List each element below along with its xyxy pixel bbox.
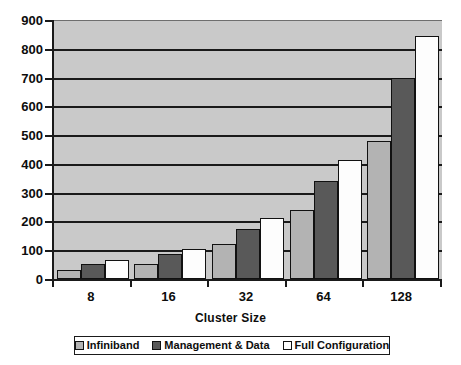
y-tick-label-200: 200 <box>0 215 43 228</box>
x-tick-mark-2 <box>207 279 209 287</box>
bar-64-series-0 <box>290 210 314 279</box>
y-tick-mark-0 <box>45 279 52 281</box>
y-tick-label-700: 700 <box>0 72 43 85</box>
y-tick-mark-100 <box>45 250 52 252</box>
bar-128-series-0 <box>367 141 391 279</box>
bar-8-series-2 <box>105 260 129 279</box>
bar-group-128 <box>364 20 442 279</box>
bar-128-series-2 <box>415 36 439 279</box>
bar-16-series-2 <box>182 249 206 279</box>
bar-16-series-0 <box>134 264 158 279</box>
bar-group-8 <box>54 20 132 279</box>
bar-16-series-1 <box>158 254 182 279</box>
plot-area <box>52 20 442 281</box>
legend-swatch-icon-2 <box>283 341 292 350</box>
x-tick-mark-5 <box>440 279 442 287</box>
x-tick-label-16: 16 <box>161 290 175 303</box>
y-tick-mark-600 <box>45 106 52 108</box>
y-tick-mark-500 <box>45 135 52 137</box>
y-tick-mark-200 <box>45 221 52 223</box>
bar-32-series-1 <box>236 229 260 279</box>
bar-group-32 <box>209 20 287 279</box>
x-tick-label-32: 32 <box>239 290 253 303</box>
x-axis-title: Cluster Size <box>0 311 461 325</box>
bar-128-series-1 <box>391 78 415 279</box>
legend-entry-2: Full Configuration <box>283 340 390 351</box>
bar-64-series-1 <box>314 181 338 279</box>
legend-entry-1: Management & Data <box>152 340 269 351</box>
bar-64-series-2 <box>338 160 362 279</box>
y-tick-mark-800 <box>45 49 52 51</box>
y-tick-label-900: 900 <box>0 14 43 27</box>
x-tick-mark-0 <box>52 279 54 287</box>
y-tick-label-100: 100 <box>0 244 43 257</box>
x-tick-label-64: 64 <box>316 290 330 303</box>
bar-chart: 9008007006005004003002001000 8163264128 … <box>0 0 461 365</box>
x-tick-label-128: 128 <box>390 290 412 303</box>
bar-8-series-0 <box>57 270 81 279</box>
x-tick-mark-3 <box>285 279 287 287</box>
y-tick-label-800: 800 <box>0 43 43 56</box>
y-tick-label-0: 0 <box>0 273 43 286</box>
legend-label-2: Full Configuration <box>295 340 390 351</box>
legend-swatch-icon-1 <box>152 341 161 350</box>
y-tick-mark-300 <box>45 193 52 195</box>
legend-entry-0: Infiniband <box>75 340 140 351</box>
chart-legend: InfinibandManagement & DataFull Configur… <box>74 336 390 355</box>
bar-32-series-0 <box>212 244 236 279</box>
bar-32-series-2 <box>260 218 284 279</box>
legend-swatch-icon-0 <box>75 341 84 350</box>
legend-label-0: Infiniband <box>87 340 140 351</box>
legend-label-1: Management & Data <box>164 340 269 351</box>
bar-group-64 <box>287 20 365 279</box>
x-tick-mark-1 <box>130 279 132 287</box>
bar-series-layer <box>54 20 442 279</box>
bar-8-series-1 <box>81 264 105 279</box>
y-tick-mark-400 <box>45 164 52 166</box>
x-tick-mark-4 <box>362 279 364 287</box>
y-tick-mark-700 <box>45 78 52 80</box>
y-tick-label-500: 500 <box>0 129 43 142</box>
y-tick-mark-900 <box>45 20 52 22</box>
x-tick-label-8: 8 <box>87 290 94 303</box>
y-tick-label-400: 400 <box>0 158 43 171</box>
y-tick-label-300: 300 <box>0 187 43 200</box>
bar-group-16 <box>132 20 210 279</box>
y-tick-label-600: 600 <box>0 100 43 113</box>
